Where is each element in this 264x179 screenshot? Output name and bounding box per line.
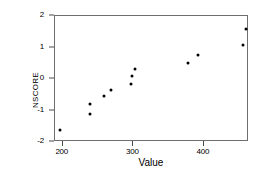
x-tick-mark — [132, 141, 133, 146]
y-tick-label: 1 — [40, 42, 44, 52]
plot-area — [54, 15, 248, 141]
data-point — [130, 83, 133, 86]
data-point — [88, 113, 91, 116]
y-tick-label: -1 — [37, 105, 44, 115]
data-point — [241, 43, 244, 46]
x-tick-label: 200 — [55, 147, 68, 156]
data-point — [130, 75, 133, 78]
data-point — [134, 67, 137, 70]
data-point — [89, 102, 92, 105]
data-points-layer — [55, 16, 247, 140]
y-tick-label: 2 — [40, 10, 44, 20]
scatter-chart: NSCORE 210-1-2 200300400 Value — [0, 0, 264, 179]
data-point — [245, 27, 248, 30]
x-axis-title: Value — [139, 157, 164, 168]
x-axis: 200300400 — [0, 141, 264, 161]
data-point — [197, 54, 200, 57]
y-tick-label: 0 — [40, 73, 44, 83]
x-tick-mark — [62, 141, 63, 146]
data-point — [102, 94, 105, 97]
data-point — [109, 88, 112, 91]
x-tick-label: 400 — [196, 147, 209, 156]
x-tick-mark — [203, 141, 204, 146]
data-point — [58, 129, 61, 132]
x-tick-label: 300 — [126, 147, 139, 156]
data-point — [187, 61, 190, 64]
